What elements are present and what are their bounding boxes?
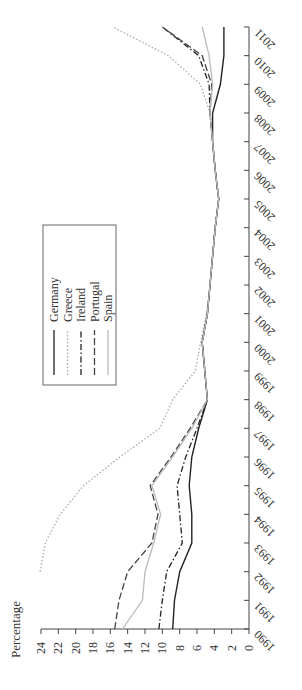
y-tick-label: 4 (207, 645, 221, 651)
line-chart: 024681012141618202224 199019911992199319… (0, 0, 302, 690)
y-tick-label: 16 (103, 642, 117, 654)
x-tick-label: 1996 (251, 456, 278, 483)
x-tick-label: 2010 (251, 54, 278, 81)
legend-label-ireland: Ireland (74, 288, 88, 322)
x-tick-label: 1994 (251, 513, 278, 540)
legend-label-spain: Spain (101, 295, 115, 322)
x-tick-label: 1993 (251, 542, 278, 569)
x-tick-label: 2008 (251, 112, 278, 139)
legend-label-germany: Germany (47, 277, 61, 322)
y-axis-title: Percentage (8, 601, 23, 658)
x-tick-label: 2001 (251, 312, 278, 339)
value-axis: 024681012141618202224 (34, 629, 256, 654)
y-tick-label: 12 (138, 642, 152, 654)
y-tick-label: 22 (51, 642, 65, 654)
x-tick-label: 2005 (251, 198, 278, 225)
x-tick-label: 2002 (251, 284, 278, 311)
x-tick-label: 1992 (251, 570, 278, 597)
x-tick-label: 2006 (251, 169, 278, 196)
series-line-spain (123, 27, 219, 629)
y-tick-label: 24 (34, 642, 48, 654)
y-tick-label: 20 (69, 642, 83, 654)
x-tick-label: 2004 (251, 226, 278, 253)
x-tick-label: 1995 (251, 484, 278, 511)
legend-label-portugal: Portugal (88, 281, 102, 322)
y-tick-label: 18 (86, 642, 100, 654)
legend-label-greece: Greece (61, 288, 75, 322)
y-tick-label: 6 (190, 645, 204, 651)
x-tick-label: 1991 (251, 599, 278, 626)
x-tick-label: 2011 (251, 26, 278, 53)
x-tick-label: 1999 (251, 370, 278, 397)
x-tick-label: 1998 (251, 398, 278, 425)
y-tick-label: 14 (121, 642, 135, 654)
x-tick-label: 1997 (251, 427, 278, 454)
legend: GermanyGreeceIrelandPortugalSpain (43, 225, 116, 385)
y-tick-label: 0 (242, 645, 256, 651)
y-tick-label: 8 (173, 645, 187, 651)
x-tick-label: 2007 (251, 140, 278, 167)
x-tick-label: 2000 (251, 341, 278, 368)
x-tick-label: 2003 (251, 255, 278, 282)
y-tick-label: 2 (225, 645, 239, 651)
series-line-ireland (159, 27, 219, 629)
series-line-germany (173, 27, 224, 629)
year-axis: 1990199119921993199419951996199719981999… (244, 26, 278, 655)
y-tick-label: 10 (155, 642, 169, 654)
x-tick-label: 2009 (251, 83, 278, 110)
